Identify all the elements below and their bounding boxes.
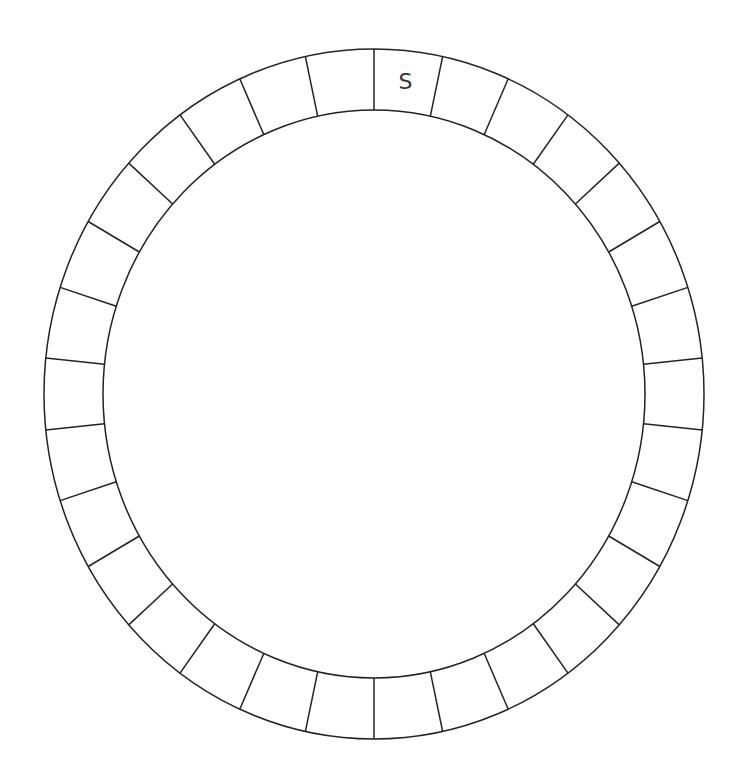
ring-cell[interactable]	[44, 358, 104, 430]
circular-ring-diagram: S	[0, 0, 743, 780]
ring-cells	[44, 49, 704, 739]
cell-labels: S	[398, 69, 412, 94]
ring-cell[interactable]	[644, 358, 704, 430]
inner-circle	[103, 110, 645, 678]
cell-label: S	[398, 69, 412, 94]
